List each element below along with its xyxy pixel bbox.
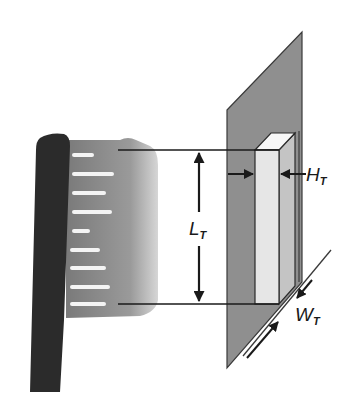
test-block — [255, 131, 299, 304]
height-label-subscript: T — [320, 175, 327, 187]
length-label-subscript: T — [200, 229, 207, 241]
width-label-subscript: T — [313, 315, 320, 327]
height-label-symbol: H — [306, 164, 320, 185]
width-label-symbol: W — [295, 304, 313, 325]
bristle-tuft — [66, 138, 158, 318]
toothbrush-handle — [30, 134, 70, 393]
length-label-symbol: L — [189, 218, 200, 239]
block-side-face — [279, 133, 295, 304]
block-front-face — [255, 150, 279, 304]
toothbrush-test-diagram — [0, 0, 353, 408]
width-label: WT — [295, 305, 320, 327]
height-label: HT — [306, 165, 326, 187]
length-label: LT — [189, 219, 206, 241]
